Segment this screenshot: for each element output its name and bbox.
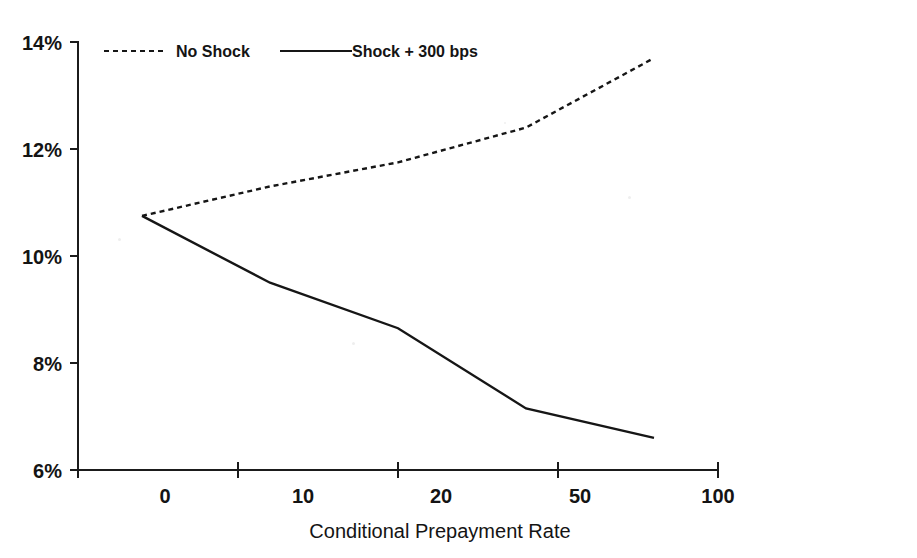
x-tick-label: 50 [569, 485, 591, 507]
y-tick-label: 10% [22, 246, 62, 268]
y-tick-label: 12% [22, 139, 62, 161]
chart-figure: 6% 8% 10% 12% 14% 0 10 20 50 100 Conditi… [0, 0, 917, 558]
legend-label-shock-300bps: Shock + 300 bps [352, 43, 478, 60]
x-tick-label: 100 [701, 485, 734, 507]
legend-label-no-shock: No Shock [176, 43, 250, 60]
y-axis-tick-labels: 6% 8% 10% 12% 14% [22, 32, 62, 482]
series-line-shock-300bps [142, 216, 654, 438]
y-tick-label: 8% [33, 353, 62, 375]
y-tick-label: 14% [22, 32, 62, 54]
y-tick-label: 6% [33, 460, 62, 482]
line-chart-plot: 6% 8% 10% 12% 14% 0 10 20 50 100 Conditi… [0, 0, 917, 558]
chart-legend: No Shock Shock + 300 bps [104, 43, 478, 60]
x-tick-label: 10 [292, 485, 314, 507]
x-axis-tick-labels: 0 10 20 50 100 [159, 485, 734, 507]
x-tick-label: 20 [430, 485, 452, 507]
y-axis-ticks [70, 42, 78, 470]
x-axis-title: Conditional Prepayment Rate [309, 520, 570, 542]
series-line-no-shock [142, 58, 654, 216]
x-tick-label: 0 [159, 485, 170, 507]
